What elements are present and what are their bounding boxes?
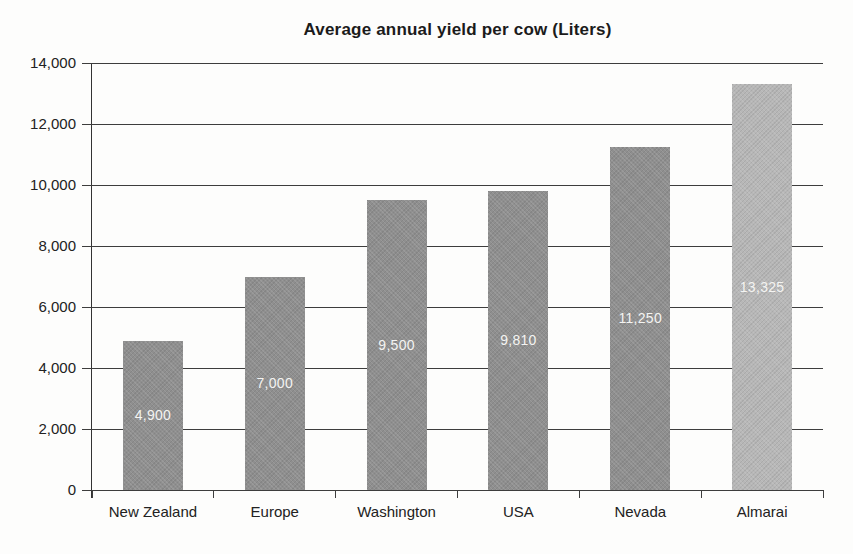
bar-value-label-almarai: 13,325 <box>732 279 792 295</box>
y-tick-label-10000: 10,000 <box>0 176 76 194</box>
x-axis-tick-1 <box>213 490 214 498</box>
y-tick-label-0: 0 <box>0 481 76 499</box>
x-axis-tick-4 <box>579 490 580 498</box>
bar-value-label-washington: 9,500 <box>367 337 427 353</box>
y-axis-tick-14000 <box>82 63 92 64</box>
gridline-14000 <box>92 63 823 64</box>
bar-new-zealand: 4,900 <box>123 341 183 490</box>
y-tick-label-2000: 2,000 <box>0 420 76 438</box>
bar-value-label-nevada: 11,250 <box>610 310 670 326</box>
chart-figure: Average annual yield per cow (Liters) 02… <box>0 0 853 554</box>
bar-value-label-new-zealand: 4,900 <box>123 407 183 423</box>
y-tick-label-14000: 14,000 <box>0 54 76 72</box>
gridline-12000 <box>92 124 823 125</box>
gridline-8000 <box>92 246 823 247</box>
gridline-6000 <box>92 307 823 308</box>
y-axis-tick-2000 <box>82 429 92 430</box>
bar-value-label-usa: 9,810 <box>488 332 548 348</box>
chart-title: Average annual yield per cow (Liters) <box>92 20 823 40</box>
plot-area: 02,0004,0006,0008,00010,00012,00014,0004… <box>92 63 823 490</box>
y-tick-label-4000: 4,000 <box>0 359 76 377</box>
y-axis-tick-10000 <box>82 185 92 186</box>
x-axis-tick-2 <box>335 490 336 498</box>
x-tick-label-washington: Washington <box>336 503 458 520</box>
bar-washington: 9,500 <box>367 200 427 490</box>
gridline-2000 <box>92 429 823 430</box>
bar-usa: 9,810 <box>488 191 548 490</box>
x-tick-label-nevada: Nevada <box>579 503 701 520</box>
y-tick-label-8000: 8,000 <box>0 237 76 255</box>
gridline-4000 <box>92 368 823 369</box>
y-axis-tick-6000 <box>82 307 92 308</box>
bar-almarai: 13,325 <box>732 84 792 490</box>
y-axis-tick-8000 <box>82 246 92 247</box>
gridline-10000 <box>92 185 823 186</box>
y-axis-line <box>91 63 92 498</box>
y-axis-tick-12000 <box>82 124 92 125</box>
y-tick-label-12000: 12,000 <box>0 115 76 133</box>
x-axis-tick-6 <box>823 490 824 498</box>
x-axis-tick-0 <box>92 490 93 498</box>
x-tick-label-usa: USA <box>458 503 580 520</box>
x-axis-tick-5 <box>701 490 702 498</box>
x-axis-tick-3 <box>457 490 458 498</box>
x-tick-label-new-zealand: New Zealand <box>92 503 214 520</box>
y-tick-label-6000: 6,000 <box>0 298 76 316</box>
y-axis-tick-0 <box>82 490 92 491</box>
x-tick-label-europe: Europe <box>214 503 336 520</box>
bar-nevada: 11,250 <box>610 147 670 490</box>
x-tick-label-almarai: Almarai <box>701 503 823 520</box>
bar-europe: 7,000 <box>245 277 305 491</box>
y-axis-tick-4000 <box>82 368 92 369</box>
bar-value-label-europe: 7,000 <box>245 375 305 391</box>
